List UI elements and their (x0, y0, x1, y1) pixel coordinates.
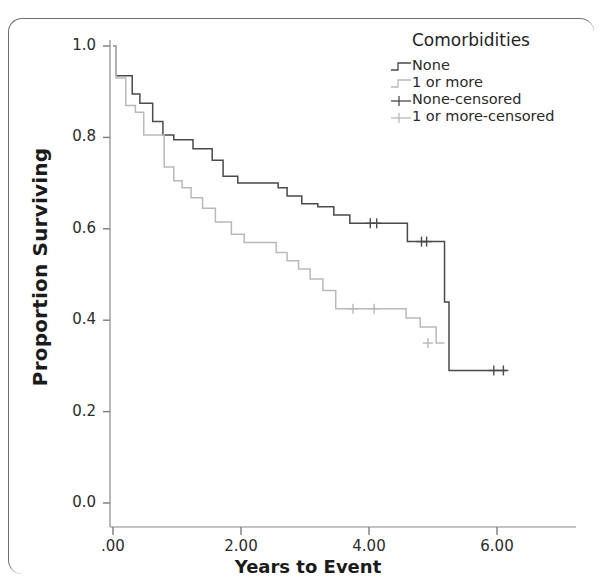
censor-mark (348, 304, 358, 314)
line-sample-icon (390, 75, 412, 89)
x-tick-label: 6.00 (467, 537, 527, 555)
legend-entry: None (390, 56, 570, 73)
censor-mark (422, 237, 432, 247)
x-tick-label: 4.00 (339, 537, 399, 555)
legend-title: Comorbidities (412, 30, 570, 50)
y-tick-label: 0.6 (52, 219, 96, 237)
y-tick-label: 0.8 (52, 127, 96, 145)
y-tick-label: 1.0 (52, 36, 96, 54)
censor-mark (498, 365, 508, 375)
censor-marks-layer (348, 218, 508, 375)
legend-label: None (412, 57, 450, 73)
legend-entry: None-censored (390, 90, 570, 107)
legend-label: 1 or more (412, 74, 483, 90)
y-tick-label: 0.0 (52, 493, 96, 511)
survival-chart-figure: 0.00.20.40.60.81.0 .002.004.006.00 Propo… (0, 0, 602, 580)
censor-mark (489, 365, 499, 375)
y-tick-label: 0.4 (52, 310, 96, 328)
legend-label: 1 or more-censored (412, 108, 554, 124)
censor-sample-icon (390, 92, 412, 106)
legend-entry: 1 or more (390, 73, 570, 90)
censor-mark (423, 338, 433, 348)
legend: Comorbidities None1 or moreNone-censored… (390, 30, 570, 124)
censor-sample-icon (390, 109, 412, 123)
x-tick-label: 2.00 (211, 537, 271, 555)
censor-mark (369, 304, 379, 314)
censor-mark (372, 218, 382, 228)
y-tick-label: 0.2 (52, 402, 96, 420)
legend-label: None-censored (412, 91, 521, 107)
line-sample-icon (390, 58, 412, 72)
x-tick-label: .00 (83, 537, 143, 555)
x-axis-title: Years to Event (113, 556, 503, 577)
legend-entries: None1 or moreNone-censored1 or more-cens… (390, 56, 570, 124)
y-axis-title: Proportion Surviving (28, 137, 52, 397)
legend-entry: 1 or more-censored (390, 107, 570, 124)
